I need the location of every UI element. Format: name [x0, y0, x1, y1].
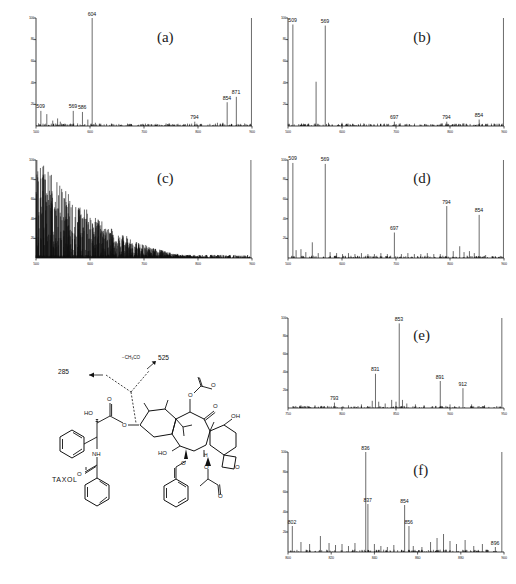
x-axis-tick-label: 800: [443, 262, 457, 266]
atom-label-O-acetyl-C4: O: [218, 493, 223, 499]
peak-label-896: 896: [491, 540, 499, 546]
peak-label-586: 586: [78, 104, 86, 110]
y-axis-tick-label: 60: [24, 197, 34, 201]
x-axis-tick-label: 900: [497, 262, 511, 266]
peak-label-794: 794: [190, 114, 198, 120]
y-axis-tick-label: 60: [276, 490, 286, 494]
spectrum-plot-a: [20, 8, 256, 138]
y-axis-tick-label: 100: [276, 158, 286, 162]
atom-label-HO-C1: HO: [158, 450, 167, 456]
x-axis-tick-label: 840: [367, 556, 381, 560]
peak-label-509: 509: [288, 155, 296, 161]
peak-label-854: 854: [475, 207, 483, 213]
peak-label-856: 856: [404, 519, 412, 525]
y-axis-tick-label: 100: [276, 316, 286, 320]
atom-label-O-ketone-C9: O: [213, 403, 218, 409]
x-axis-tick-label: 700: [389, 130, 403, 134]
x-axis-tick-label: 750: [281, 412, 295, 416]
x-axis-tick-label: 700: [137, 130, 151, 134]
atom-label-OH-C7: OH: [231, 413, 240, 419]
atom-label-O-acetate-C4: O: [204, 464, 209, 470]
y-axis-tick-label: 100: [276, 450, 286, 454]
peak-label-854: 854: [475, 112, 483, 118]
peak-label-509: 509: [36, 103, 44, 109]
panel-label-d: (d): [413, 170, 431, 187]
x-axis-tick-label: 600: [335, 130, 349, 134]
peak-label-831: 831: [371, 366, 379, 372]
peak-label-697: 697: [390, 114, 398, 120]
spectrum-plot-c: [20, 150, 256, 270]
spectrum-panel-e: 2040608010075080085090095079383185389191…: [272, 308, 508, 420]
x-axis-tick-label: 800: [191, 262, 205, 266]
atom-label-HO-2prime: HO: [84, 410, 93, 416]
x-axis-tick-label: 600: [83, 130, 97, 134]
spectrum-plot-e: [272, 308, 508, 420]
y-axis-tick-label: 80: [276, 470, 286, 474]
x-axis-tick-label: 900: [443, 412, 457, 416]
y-axis-tick-label: 60: [24, 59, 34, 63]
spectrum-panel-f: 2040608010080082084086088090080283683785…: [272, 442, 508, 564]
peak-label-604: 604: [88, 11, 96, 17]
spectrum-panel-c: 20406080100500600700800900(c): [20, 150, 256, 270]
y-axis-tick-label: 20: [24, 236, 34, 240]
peak-label-837: 837: [363, 497, 371, 503]
x-axis-tick-label: 500: [281, 130, 295, 134]
panel-label-e: (e): [413, 327, 430, 344]
y-axis-tick-label: 40: [276, 370, 286, 374]
spectrum-panel-b: 2040608010050060070080090050956969779485…: [272, 8, 508, 138]
atom-label-O-ester: O: [122, 422, 127, 428]
y-axis-tick-label: 40: [24, 217, 34, 221]
y-axis-tick-label: 20: [276, 388, 286, 392]
spectrum-plot-f: [272, 442, 508, 564]
peak-label-891: 891: [436, 374, 444, 380]
x-axis-tick-label: 860: [411, 556, 425, 560]
panel-label-f: (f): [413, 462, 428, 479]
x-axis-tick-label: 850: [389, 412, 403, 416]
annotation-285: 285: [58, 368, 69, 375]
y-axis-tick-label: 80: [24, 177, 34, 181]
annotation-525: 525: [158, 354, 169, 361]
x-axis-tick-label: 820: [324, 556, 338, 560]
peak-label-569: 569: [321, 18, 329, 24]
x-axis-tick-label: 880: [454, 556, 468, 560]
x-axis-tick-label: 700: [137, 262, 151, 266]
atom-label-H: H: [204, 452, 208, 458]
y-axis-tick-label: 40: [276, 510, 286, 514]
peak-label-509: 509: [288, 17, 296, 23]
peak-label-569: 569: [69, 103, 77, 109]
x-axis-tick-label: 800: [335, 412, 349, 416]
y-axis-tick-label: 80: [276, 177, 286, 181]
atom-label-O-oxetane: O: [235, 464, 240, 470]
peak-label-802: 802: [288, 519, 296, 525]
peak-label-697: 697: [390, 225, 398, 231]
peak-label-793: 793: [330, 395, 338, 401]
peak-label-854: 854: [400, 498, 408, 504]
atom-label-O-carbonyl-1prime: O: [107, 396, 112, 402]
y-axis-tick-label: 60: [276, 352, 286, 356]
peak-label-569: 569: [321, 156, 329, 162]
x-axis-tick-label: 800: [191, 130, 205, 134]
x-axis-tick-label: 600: [335, 262, 349, 266]
peak-label-853: 853: [395, 316, 403, 322]
atom-label-NH: NH: [92, 451, 101, 457]
y-axis-tick-label: 20: [276, 236, 286, 240]
y-axis-tick-label: 80: [276, 37, 286, 41]
peak-label-854: 854: [223, 95, 231, 101]
peak-label-794: 794: [442, 199, 450, 205]
x-axis-tick-label: 500: [29, 130, 43, 134]
taxol-structure: HO O O NH O O O O OH HO O H O O O: [18, 345, 258, 525]
atom-label-O-benzoate: O: [181, 460, 186, 466]
y-axis-tick-label: 60: [276, 59, 286, 63]
atom-label-O-acetate-C10: O: [188, 392, 193, 398]
x-axis-tick-label: 900: [497, 556, 511, 560]
peak-label-912: 912: [458, 381, 466, 387]
x-axis-tick-label: 900: [497, 130, 511, 134]
atom-label-O-amide: O: [77, 471, 82, 477]
y-axis-tick-label: 80: [24, 37, 34, 41]
y-axis-tick-label: 100: [276, 16, 286, 20]
y-axis-tick-label: 20: [276, 102, 286, 106]
panel-label-c: (c): [157, 170, 174, 187]
panel-label-b: (b): [413, 29, 431, 46]
x-axis-tick-label: 500: [29, 262, 43, 266]
y-axis-tick-label: 40: [276, 81, 286, 85]
